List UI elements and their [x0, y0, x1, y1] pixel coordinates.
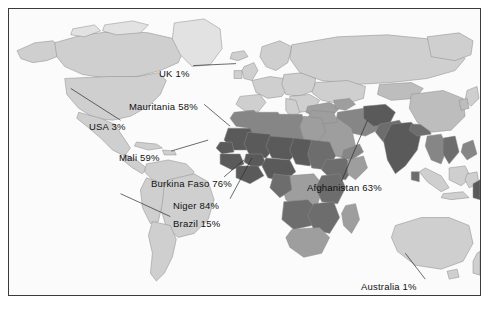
- country-ghana-ivorycoast: [236, 166, 264, 184]
- island-sumatra: [419, 168, 449, 192]
- island-new-zealand: [473, 251, 480, 275]
- region-siberia-east: [427, 33, 473, 61]
- map-label-usa: USA 3%: [89, 122, 126, 132]
- island-hispaniola: [162, 150, 176, 155]
- island-java: [441, 192, 469, 200]
- map-label-brazil: Brazil 15%: [173, 219, 220, 229]
- island-iceland: [230, 51, 248, 61]
- country-australia: [391, 218, 473, 270]
- leader-line-mali: [171, 140, 208, 151]
- island-madagascar: [342, 204, 360, 234]
- map-label-mali: Mali 59%: [119, 153, 160, 163]
- country-vietnam: [443, 136, 459, 164]
- country-south-africa: [286, 227, 330, 257]
- map-frame: UK 1% Mauritania 58% USA 3% Mali 59% Bur…: [8, 8, 481, 296]
- country-argentina-chile: [148, 222, 176, 282]
- island-srilanka: [411, 172, 419, 182]
- region-north-america: [17, 19, 248, 174]
- map-label-afghanistan: Afghanistan 63%: [307, 183, 382, 193]
- map-label-niger: Niger 84%: [173, 201, 219, 211]
- country-korea: [459, 98, 469, 110]
- map-label-mauritania: Mauritania 58%: [129, 102, 198, 112]
- map-label-australia: Australia 1%: [361, 282, 417, 292]
- world-map-figure: UK 1% Mauritania 58% USA 3% Mali 59% Bur…: [0, 0, 492, 309]
- map-label-burkina-faso: Burkina Faso 76%: [151, 179, 232, 189]
- island-philippines: [461, 140, 477, 160]
- island-tasmania: [447, 269, 459, 279]
- leader-line-mauritania: [204, 104, 230, 126]
- world-map-svg: [9, 9, 480, 295]
- region-scandinavia: [260, 41, 292, 71]
- map-label-uk: UK 1%: [159, 69, 190, 79]
- country-ireland: [234, 71, 242, 79]
- country-alaska: [17, 41, 61, 63]
- country-uk: [242, 63, 258, 81]
- island-cuba: [134, 142, 162, 150]
- country-senegal: [216, 142, 234, 154]
- country-spain-portugal: [236, 94, 266, 112]
